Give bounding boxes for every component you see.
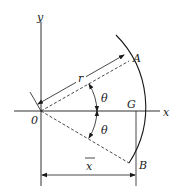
angle-lower-label: θ (101, 124, 108, 137)
origin-label: 0 (31, 114, 38, 127)
angle-arc-lower (89, 111, 97, 138)
point-b-label: B (138, 159, 147, 172)
radius-oa-dashed (41, 61, 129, 111)
radius-label: r (78, 72, 84, 85)
point-a-label: A (132, 52, 141, 65)
x-bar-label: x (86, 160, 93, 173)
centroid-label: G (127, 98, 136, 111)
arc-centroid-diagram: y x 0 A B G r θ θ x (0, 0, 181, 194)
x-axis-label: x (163, 106, 170, 119)
angle-upper-label: θ (101, 92, 108, 105)
y-axis-label: y (36, 11, 44, 24)
origin-extension-line (30, 92, 41, 111)
angle-arc-upper (89, 84, 97, 111)
radius-ob-dashed (41, 111, 129, 163)
